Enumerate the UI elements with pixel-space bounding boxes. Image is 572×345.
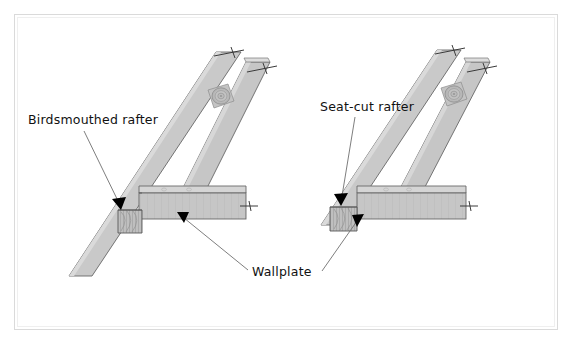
label-wallplate: Wallplate xyxy=(252,264,312,279)
diagram-canvas: Birdsmouthed rafter Seat-cut rafter Wall… xyxy=(0,0,572,345)
leader-birdsmouth xyxy=(84,131,126,210)
birdsmouth-notch-left xyxy=(118,210,142,233)
rafter-joint-diagram: Birdsmouthed rafter Seat-cut rafter Wall… xyxy=(0,0,572,345)
leader-wallplate-left xyxy=(177,212,248,270)
label-seat-cut-rafter: Seat-cut rafter xyxy=(320,99,415,114)
wallplate-right xyxy=(357,186,478,219)
birdsmouth-assembly xyxy=(69,47,277,276)
seatcut-assembly xyxy=(321,45,497,231)
label-birdsmouthed-rafter: Birdsmouthed rafter xyxy=(28,112,159,127)
wallplate-left xyxy=(139,186,258,219)
